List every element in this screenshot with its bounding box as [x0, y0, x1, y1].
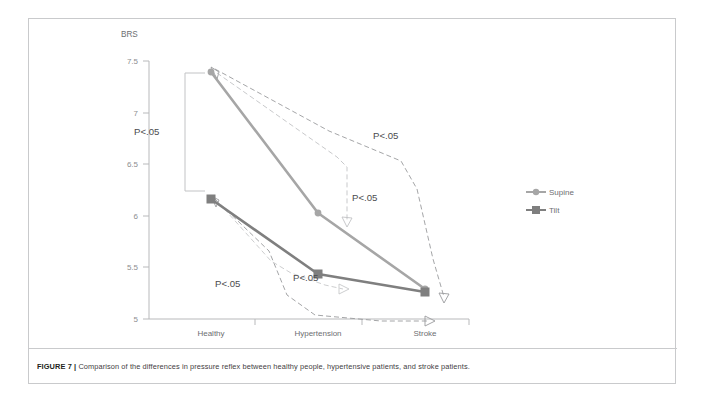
legend-label-tilt: Tilt	[549, 206, 560, 215]
series-markers-supine	[208, 69, 429, 293]
series-line-supine	[211, 72, 425, 289]
y-axis-ticks	[143, 61, 149, 319]
x-category-stroke: Stroke	[413, 329, 437, 338]
figure-caption-separator: |	[74, 362, 76, 371]
legend-item-tilt[interactable]: Tilt	[526, 206, 560, 215]
x-category-hypertension: Hypertension	[294, 329, 341, 338]
figure-caption-body: Comparison of the differences in pressur…	[78, 362, 469, 371]
annot-path-supine-healthy-hypertension	[217, 73, 347, 221]
y-tick-label-7: 7	[134, 109, 139, 118]
annotation-label-tilt-healthy-stroke: P<.05	[215, 278, 240, 289]
annot-arrowhead-tilt-hypertension	[339, 284, 349, 294]
datapoint-tilt-healthy	[207, 195, 216, 204]
legend-item-supine[interactable]: Supine	[526, 188, 574, 197]
y-axis-title: BRS	[121, 30, 138, 39]
legend-marker-tilt	[532, 206, 540, 214]
annotation-label-tilt-healthy-hypertension: P<.05	[293, 272, 318, 283]
annotation-label-bracket-healthy: P<.05	[134, 126, 159, 137]
datapoint-supine-hypertension	[315, 210, 322, 217]
y-tick-label-7-5: 7.5	[127, 57, 139, 66]
x-category-healthy: Healthy	[197, 329, 224, 338]
chart-legend: Supine Tilt	[526, 188, 574, 215]
datapoint-supine-healthy	[208, 69, 215, 76]
figure-caption: FIGURE 7 | Comparison of the differences…	[37, 361, 470, 372]
annot-arrowhead-supine-stroke	[439, 293, 449, 303]
legend-marker-supine	[533, 189, 539, 195]
figure-caption-bar: FIGURE 7 | Comparison of the differences…	[29, 348, 677, 383]
datapoint-tilt-stroke	[421, 288, 430, 297]
legend-label-supine: Supine	[549, 188, 574, 197]
annot-bracket-healthy	[185, 73, 205, 191]
figure-frame: BRS 5 5.5 6 6.5 7 7.5	[28, 18, 676, 384]
y-tick-label-5-5: 5.5	[127, 263, 139, 272]
y-tick-label-6: 6	[134, 212, 139, 221]
x-axis-ticks	[255, 319, 469, 325]
brs-line-chart: BRS 5 5.5 6 6.5 7 7.5	[29, 19, 677, 349]
figure-caption-prefix: FIGURE 7	[37, 362, 72, 371]
annotation-label-supine-healthy-hypertension: P<.05	[352, 192, 377, 203]
y-tick-label-6-5: 6.5	[127, 160, 139, 169]
y-tick-label-5: 5	[134, 315, 139, 324]
annot-path-supine-healthy-stroke	[215, 69, 444, 297]
annotation-label-supine-healthy-stroke: P<.05	[373, 130, 398, 141]
chart-plot-region: BRS 5 5.5 6 6.5 7 7.5	[29, 19, 677, 349]
